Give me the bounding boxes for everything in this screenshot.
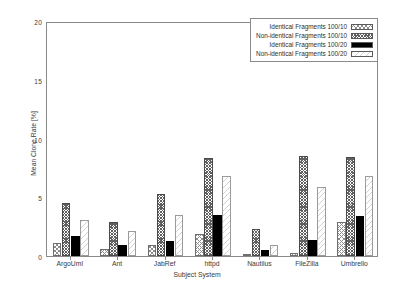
bar	[128, 231, 137, 256]
bar	[100, 249, 109, 256]
bar	[270, 245, 279, 256]
bar	[157, 194, 166, 256]
bar	[337, 222, 346, 256]
legend-swatch	[351, 24, 373, 30]
bar-group	[53, 23, 89, 256]
legend-item: Identical Fragments 100/10	[256, 22, 373, 31]
bar	[299, 156, 308, 256]
legend-swatch	[351, 33, 373, 39]
bar	[175, 215, 184, 256]
bar	[222, 176, 231, 256]
bar	[80, 220, 89, 256]
x-axis-title: Subject System	[0, 271, 394, 278]
bar	[290, 253, 299, 256]
x-tick-label: Umbrello	[341, 260, 368, 267]
x-tick-label: FileZilla	[295, 260, 318, 267]
bar	[356, 216, 365, 256]
y-tick-label: 5	[0, 195, 42, 202]
bar-group	[195, 23, 231, 256]
y-tick-label: 10	[0, 136, 42, 143]
legend-label: Non-identical Fragments 100/10	[256, 32, 347, 39]
legend-swatch	[351, 42, 373, 48]
y-tick-label: 20	[0, 19, 42, 26]
bar	[195, 234, 204, 256]
y-tick-label: 0	[0, 254, 42, 261]
legend-label: Identical Fragments 100/20	[270, 41, 347, 48]
legend-label: Non-identical Fragments 100/20	[256, 50, 347, 57]
bar	[346, 157, 355, 256]
bar	[261, 250, 270, 256]
bar	[62, 203, 71, 256]
bar	[204, 158, 213, 256]
bar-group	[148, 23, 184, 256]
legend-label: Identical Fragments 100/10	[270, 23, 347, 30]
x-tick-label: Nautilus	[247, 260, 272, 267]
bar	[317, 187, 326, 256]
bar	[166, 241, 175, 256]
legend-item: Non-identical Fragments 100/20	[256, 49, 373, 58]
legend: Identical Fragments 100/10Non-identical …	[250, 18, 378, 62]
bar-chart: Mean Clone Rate [%] 05101520 ArgoUmlAntJ…	[0, 0, 394, 290]
bar-group	[100, 23, 136, 256]
legend-swatch	[351, 51, 373, 57]
bar	[243, 254, 252, 256]
x-tick-label: JabRef	[154, 260, 176, 267]
bar	[109, 222, 118, 256]
x-tick-label: Ant	[112, 260, 122, 267]
legend-item: Non-identical Fragments 100/10	[256, 31, 373, 40]
bar	[252, 229, 261, 256]
bar	[71, 236, 80, 256]
bar	[118, 245, 127, 256]
bar	[308, 240, 317, 256]
x-tick-label: ArgoUml	[56, 260, 82, 267]
bar	[213, 215, 222, 256]
x-tick-label: httpd	[204, 260, 219, 267]
bar	[365, 176, 374, 256]
bar	[148, 245, 157, 256]
legend-item: Identical Fragments 100/20	[256, 40, 373, 49]
y-tick-label: 15	[0, 77, 42, 84]
bar	[53, 243, 62, 256]
